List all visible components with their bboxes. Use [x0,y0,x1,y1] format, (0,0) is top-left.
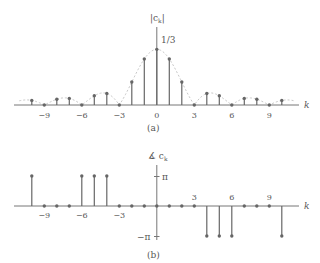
stem-marker [30,174,33,177]
stem-marker [168,57,171,60]
stem-marker [243,204,246,207]
k-tick-label: 3 [192,193,197,202]
stem-marker [218,234,221,237]
stem-marker [93,94,96,97]
stem-marker [218,94,221,97]
k-tick-labels-a: −9−6−30369 [38,111,271,120]
k-label-b: k [304,201,309,211]
stem-marker [130,80,133,83]
stem-marker [105,92,108,95]
k-tick-label: −6 [76,111,88,120]
stem-marker [55,98,58,101]
k-tick-label: 9 [267,111,272,120]
stem-marker [205,234,208,237]
k-tick-label: 0 [154,111,159,120]
stem-marker [243,97,246,100]
stem-marker [280,99,283,102]
pi-label: π [162,172,168,182]
one-third-label: 1/3 [161,35,176,45]
stem-marker [230,103,233,106]
k-tick-label: 9 [267,193,272,202]
stem-marker [118,103,121,106]
stem-marker [68,97,71,100]
mag-axis-label: |ck| [150,13,165,24]
stem-marker [168,204,171,207]
stem-marker [180,80,183,83]
stem-marker [55,204,58,207]
stem-marker [255,98,258,101]
stem-marker [155,204,158,207]
phase-axis-label: ∡ ck [148,151,168,162]
k-tick-label: −6 [76,211,88,220]
k-tick-label: 6 [229,193,234,202]
stem-marker [280,234,283,237]
k-tick-label: −9 [38,111,50,120]
stem-marker [155,48,158,51]
stem-marker [43,103,46,106]
k-label-a: k [304,100,309,110]
stem-marker [143,204,146,207]
phase-plot: −9−6−3369 ∡ ck π −π k (b) [14,151,309,260]
stem-marker [268,204,271,207]
stem-marker [193,103,196,106]
k-tick-label: 6 [229,111,234,120]
k-tick-label: 3 [192,111,197,120]
stem-marker [180,204,183,207]
k-tick-label: −9 [38,211,50,220]
magnitude-plot: −9−6−30369 |ck| 1/3 k (a) [14,13,309,133]
k-tick-label: −3 [113,211,125,220]
stem-marker [143,57,146,60]
magnitude-stems [30,48,283,107]
stem-marker [80,103,83,106]
stem-marker [205,92,208,95]
stem-marker [30,99,33,102]
stem-marker [255,204,258,207]
figure: −9−6−30369 |ck| 1/3 k (a) −9−6−3369 ∡ ck… [0,0,320,263]
stem-marker [268,103,271,106]
stem-marker [93,174,96,177]
stem-marker [80,174,83,177]
stem-marker [193,204,196,207]
panel-b-caption: (b) [147,250,160,260]
stem-marker [43,204,46,207]
stem-marker [68,204,71,207]
stem-marker [130,204,133,207]
panel-a-caption: (a) [147,123,159,133]
stem-marker [118,204,121,207]
k-tick-label: −3 [113,111,125,120]
neg-pi-label: −π [137,232,151,242]
stem-marker [230,234,233,237]
stem-marker [105,174,108,177]
